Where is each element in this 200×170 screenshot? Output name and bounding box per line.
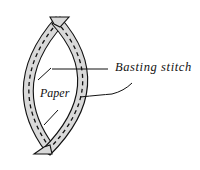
basting-stitch-label: Basting stitch (115, 60, 192, 75)
paper-label: Paper (40, 86, 69, 101)
paper-slash-bottom (44, 110, 58, 125)
paper-piecing-diagram (0, 0, 200, 170)
paper-slash-top (38, 68, 51, 80)
